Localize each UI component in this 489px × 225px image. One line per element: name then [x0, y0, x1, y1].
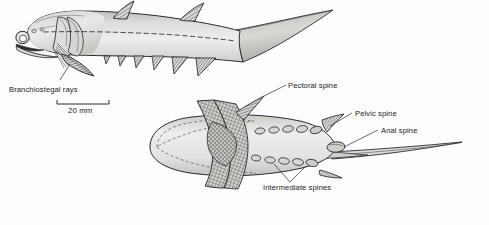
intermediate-spines-lateral: [104, 56, 164, 70]
label-pelvic-spine: Pelvic spine: [355, 109, 397, 118]
pelvic-spine-ventral-lower: [319, 170, 342, 178]
anal-spine-lateral: [196, 58, 216, 76]
pelvic-spine-lateral: [172, 57, 188, 74]
leader-branchiostegal: [60, 64, 70, 80]
label-branchiostegal-rays: Branchiostegal rays: [9, 85, 78, 94]
figure-container: Branchiostegal rays 20 mm Pectoral spine…: [0, 0, 489, 225]
label-pectoral-spine: Pectoral spine: [288, 81, 338, 90]
leader-pectoral-spine: [264, 85, 286, 96]
eye-inner: [19, 35, 26, 42]
panel-ventral-view: [150, 85, 462, 189]
leader-anal-spine: [344, 130, 378, 147]
caudal-fin-lateral: [236, 10, 333, 62]
cranial-pore-2: [40, 28, 44, 31]
second-dorsal-spine: [180, 3, 204, 21]
pelvic-spine-ventral-upper: [322, 114, 344, 132]
scale-bar-label: 20 mm: [68, 106, 92, 115]
scale-bar: [57, 100, 109, 104]
cranial-pore-1: [32, 29, 37, 32]
label-intermediate-spines: Intermediate spines: [263, 183, 331, 192]
label-anal-spine: Anal spine: [381, 126, 417, 135]
